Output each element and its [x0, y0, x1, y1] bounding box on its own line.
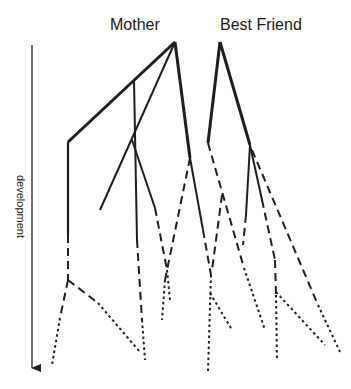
- best-friend-label: Best Friend: [220, 16, 302, 33]
- best-friend-dashed-branches: [208, 143, 318, 305]
- axis-label: development: [15, 175, 27, 238]
- development-diagram: Mother Best Friend development: [0, 0, 351, 389]
- mother-tree: [52, 42, 232, 372]
- best-friend-solid-branches: [208, 42, 262, 215]
- mother-dotted-branches: [52, 270, 232, 372]
- mother-solid-branches: [68, 42, 203, 240]
- development-axis: development: [15, 45, 32, 368]
- best-friend-tree: [208, 42, 340, 360]
- best-friend-dotted-branches: [244, 268, 340, 360]
- mother-label: Mother: [110, 16, 160, 33]
